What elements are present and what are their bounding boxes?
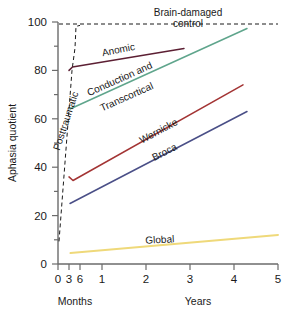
x-axis-title-months: Months — [58, 295, 92, 307]
y-tick-label-20: 20 — [34, 210, 47, 222]
x-tick-label-4-years: 4 — [231, 273, 238, 285]
label-brain-damaged-control-line2: control — [173, 18, 203, 29]
x-tick-label-6-months: 6 — [77, 273, 83, 285]
aphasia-recovery-chart: 100 80 60 40 20 0 0 3 6 1 2 3 4 5 Months… — [0, 0, 288, 318]
axis-group: 100 80 60 40 20 0 0 3 6 1 2 3 4 5 Months… — [6, 16, 281, 307]
x-tick-label-2-years: 2 — [143, 273, 149, 285]
label-anomic: Anomic — [101, 41, 136, 58]
x-tick-label-0-months: 0 — [55, 273, 61, 285]
chart-canvas: 100 80 60 40 20 0 0 3 6 1 2 3 4 5 Months… — [0, 0, 288, 318]
y-axis-title: Aphasia quotient — [6, 104, 18, 182]
label-brain-damaged-control-line1: Brain-damaged — [154, 7, 222, 18]
y-tick-label-60: 60 — [34, 113, 47, 125]
x-tick-label-1-year: 1 — [99, 273, 105, 285]
x-tick-label-3-years: 3 — [187, 273, 193, 285]
y-tick-label-0: 0 — [41, 258, 47, 270]
x-tick-label-3-months: 3 — [66, 273, 72, 285]
x-ticks — [58, 264, 278, 270]
y-tick-label-40: 40 — [34, 161, 47, 173]
x-tick-label-5-years: 5 — [275, 273, 281, 285]
x-axis-title-years: Years — [185, 295, 211, 307]
label-broca: Broca — [150, 141, 179, 163]
label-global: Global — [145, 233, 174, 245]
y-tick-label-80: 80 — [34, 64, 47, 76]
label-posttraumatic: Posttraumatic — [51, 90, 80, 152]
y-tick-label-100: 100 — [28, 16, 47, 28]
